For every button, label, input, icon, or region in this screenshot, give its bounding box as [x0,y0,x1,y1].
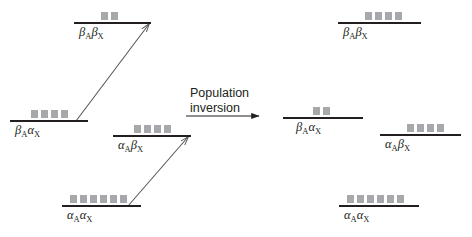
population-marker [31,110,38,118]
population-marker [323,107,330,115]
population-marker [51,110,58,118]
population-marker [367,195,374,203]
population-marker [395,12,402,20]
population-inversion-caption: Population inversion [190,86,249,116]
level-label-text: αAαX [344,208,369,222]
population-markers-right-beta-a-alpha-x [313,107,330,115]
population-marker [41,110,48,118]
population-markers-left-alpha-a-beta-x [134,125,171,133]
level-label-left-beta-a-alpha-x: βAαX [15,124,40,137]
population-marker [347,195,354,203]
population-marker [134,125,141,133]
level-label-left-beta-a-beta-x: βAβX [79,26,104,39]
level-label-text: βAβX [79,25,104,39]
population-markers-left-beta-a-alpha-x [31,110,68,118]
level-label-left-alpha-a-beta-x: αAβX [118,139,143,152]
energy-level-diagram: βAβXβAαXαAβXαAαX βAβXβAαXαAβXαAαX Popula… [0,0,472,237]
population-marker [417,124,424,132]
population-marker [90,195,97,203]
population-marker [164,125,171,133]
level-line-left-beta-a-beta-x [74,22,151,24]
level-line-left-beta-a-alpha-x [10,120,88,122]
population-marker [427,124,434,132]
population-marker [387,195,394,203]
population-markers-right-beta-a-beta-x [365,12,402,20]
level-label-right-alpha-a-alpha-x: αAαX [344,209,369,222]
level-label-text: βAαX [15,123,40,137]
level-line-left-alpha-a-beta-x [113,135,191,137]
population-markers-left-alpha-a-alpha-x [70,195,127,203]
population-marker [407,124,414,132]
population-marker [70,195,77,203]
population-marker [357,195,364,203]
level-line-right-beta-a-alpha-x [283,117,363,119]
population-marker [80,195,87,203]
population-marker [154,125,161,133]
population-marker [100,195,107,203]
level-label-right-alpha-a-beta-x: αAβX [385,138,410,151]
population-marker [365,12,372,20]
level-label-text: βAβX [343,25,368,39]
population-marker [110,195,117,203]
level-label-left-alpha-a-alpha-x: αAαX [67,209,92,222]
population-marker [101,12,108,20]
level-label-right-beta-a-alpha-x: βAαX [296,121,321,134]
population-marker [120,195,127,203]
population-markers-left-beta-a-beta-x [101,12,118,20]
level-line-right-beta-a-beta-x [338,22,421,24]
population-marker [437,124,444,132]
population-marker [377,195,384,203]
level-label-text: αAαX [67,208,92,222]
level-label-text: αAβX [385,137,410,151]
caption-line-1: Population [190,86,249,101]
level-label-right-beta-a-beta-x: βAβX [343,26,368,39]
population-marker [111,12,118,20]
population-marker [61,110,68,118]
population-marker [144,125,151,133]
level-line-left-alpha-a-alpha-x [62,205,141,207]
population-markers-right-alpha-a-alpha-x [347,195,404,203]
level-label-text: βAαX [296,120,321,134]
population-marker [397,195,404,203]
population-marker [385,12,392,20]
population-marker [313,107,320,115]
level-label-text: αAβX [118,138,143,152]
caption-line-2: inversion [190,101,249,116]
population-marker [375,12,382,20]
population-markers-right-alpha-a-beta-x [407,124,444,132]
level-line-right-alpha-a-beta-x [380,134,461,136]
level-line-right-alpha-a-alpha-x [339,205,419,207]
